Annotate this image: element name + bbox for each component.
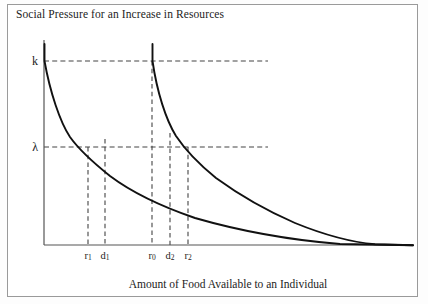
- x-axis-title: Amount of Food Available to an Individua…: [129, 278, 327, 290]
- x-tick-label-r1: r1: [84, 250, 91, 262]
- x-tick-r2-sub: 2: [188, 253, 192, 262]
- x-tick-label-d1: d1: [101, 250, 110, 262]
- x-tick-label-r2: r2: [184, 250, 191, 262]
- x-tick-d1-sub: 1: [106, 253, 110, 262]
- y-tick-label-k: k: [32, 54, 38, 69]
- curve-1: [45, 44, 414, 245]
- curve-2: [153, 44, 414, 245]
- chart-plot-area: [0, 0, 428, 304]
- y-tick-label-lambda: λ: [32, 140, 38, 155]
- x-tick-r0-sub: 0: [152, 253, 156, 262]
- figure-container: Social Pressure for an Increase in Resou…: [0, 0, 428, 304]
- x-tick-r1-sub: 1: [88, 253, 92, 262]
- x-tick-label-r0: r0: [148, 250, 155, 262]
- x-tick-label-d2: d2: [166, 250, 175, 262]
- x-tick-d2-sub: 2: [171, 253, 175, 262]
